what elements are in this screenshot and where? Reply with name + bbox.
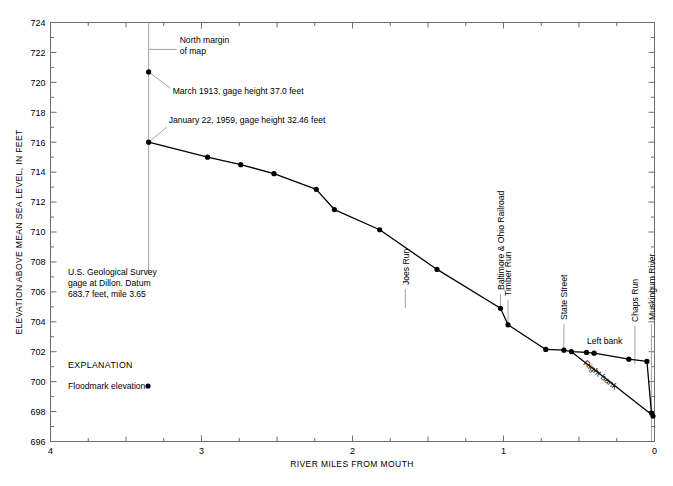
feature-label: Muskingum River — [647, 253, 657, 320]
feature-label: State Street — [559, 274, 569, 320]
data-point — [146, 140, 151, 145]
x-tick-label: 2 — [350, 446, 355, 456]
legend-title: EXPLANATION — [68, 360, 133, 370]
y-tick-label: 710 — [30, 227, 45, 237]
y-tick-label: 716 — [30, 138, 45, 148]
feature-label: Chaps Run — [630, 279, 640, 322]
annotation-text: U.S. Geological Survey — [68, 267, 158, 277]
left-bank-label: Left bank — [587, 336, 623, 346]
y-tick-label: 702 — [30, 347, 45, 357]
y-tick-label: 708 — [30, 257, 45, 267]
y-tick-label: 700 — [30, 377, 45, 387]
flood-profile-figure: 6966987007027047067087107127147167187207… — [0, 0, 673, 486]
y-tick-label: 714 — [30, 167, 45, 177]
x-tick-label: 0 — [652, 446, 657, 456]
legend-item-label: Floodmark elevation — [68, 381, 146, 391]
data-point — [505, 322, 510, 327]
data-point — [543, 347, 548, 352]
y-tick-label: 712 — [30, 197, 45, 207]
annotation-text: North margin — [180, 35, 230, 45]
data-point — [626, 357, 631, 362]
y-tick-label: 696 — [30, 437, 45, 447]
x-tick-label: 3 — [199, 446, 204, 456]
x-tick-label: 1 — [501, 446, 506, 456]
y-tick-label: 722 — [30, 48, 45, 58]
feature-label: Timber Run — [503, 251, 513, 296]
data-point — [561, 348, 566, 353]
annotation-text: of map — [180, 46, 206, 56]
y-tick-label: 698 — [30, 407, 45, 417]
data-point — [434, 267, 439, 272]
data-point — [332, 207, 337, 212]
y-tick-label: 706 — [30, 287, 45, 297]
data-point — [377, 227, 382, 232]
annotation-text: 683.7 feet, mile 3.65 — [68, 289, 146, 299]
y-tick-label: 724 — [30, 18, 45, 28]
feature-label: Joes Run — [401, 248, 411, 285]
data-point — [498, 306, 503, 311]
floodmark-elevation-icon — [145, 383, 150, 388]
annotation-text: March 1913, gage height 37.0 feet — [173, 86, 305, 96]
data-point — [205, 155, 210, 160]
data-point — [584, 350, 589, 355]
annotation-text: gage at Dillon. Datum — [68, 278, 151, 288]
data-point — [644, 359, 649, 364]
x-axis-title: RIVER MILES FROM MOUTH — [290, 459, 414, 469]
river-profile-chart: 6966987007027047067087107127147167187207… — [0, 0, 673, 486]
data-point — [238, 162, 243, 167]
y-tick-label: 718 — [30, 108, 45, 118]
figure-background — [0, 0, 673, 486]
data-point — [146, 69, 151, 74]
data-point — [271, 171, 276, 176]
y-tick-label: 704 — [30, 317, 45, 327]
y-tick-label: 720 — [30, 78, 45, 88]
data-point — [314, 187, 319, 192]
data-point — [592, 351, 597, 356]
annotation-text: January 22, 1959, gage height 32.46 feet — [169, 115, 326, 125]
y-axis-title: ELEVATION ABOVE MEAN SEA LEVEL, IN FEET — [14, 129, 24, 334]
x-tick-label: 4 — [48, 446, 53, 456]
